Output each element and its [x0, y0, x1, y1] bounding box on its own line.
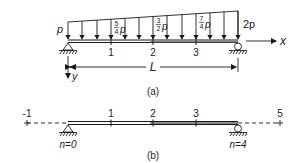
- pin-support-icon: [59, 125, 77, 136]
- y-axis-label: y: [71, 70, 79, 82]
- load-arrows: [68, 11, 238, 39]
- grid-label-1: 1: [108, 108, 114, 119]
- svg-text:p: p: [161, 21, 168, 32]
- load-label-end: 2p: [243, 18, 255, 30]
- svg-text:p: p: [204, 19, 211, 30]
- length-label: L: [150, 60, 157, 74]
- caption-a: (a): [147, 86, 159, 97]
- svg-text:7: 7: [200, 15, 204, 22]
- load-label-node2: 3 2 p: [156, 17, 168, 32]
- roller-support-icon: [229, 43, 247, 54]
- node-label-2: 2: [150, 47, 156, 58]
- load-label-node3: 7 4 p: [199, 15, 211, 30]
- grid-label-2: 2: [150, 108, 156, 119]
- svg-text:2: 2: [157, 25, 161, 32]
- grid-label-minus1: -1: [23, 108, 32, 119]
- svg-text:4: 4: [115, 28, 119, 35]
- figure-b: -1 1 2 3 5: [23, 108, 284, 161]
- plus-mark-icon: [24, 120, 30, 126]
- svg-text:4: 4: [200, 23, 204, 30]
- svg-text:5: 5: [115, 20, 119, 27]
- beam-diagram: x y L p 5 4 p 3 2 p 7 4 p: [0, 0, 298, 163]
- load-label-node1: 5 4 p: [114, 20, 126, 35]
- grid-label-3: 3: [193, 108, 199, 119]
- figure-a: x y L p 5 4 p 3 2 p 7 4 p: [56, 11, 287, 97]
- caption-b: (b): [147, 150, 159, 161]
- pin-support-icon: [59, 43, 77, 54]
- x-axis-label: x: [279, 34, 287, 48]
- node-label-3: 3: [193, 47, 199, 58]
- left-support-label: n=0: [60, 139, 77, 150]
- load-label-start: p: [56, 23, 63, 35]
- right-support-label: n=4: [230, 139, 247, 150]
- svg-text:p: p: [119, 24, 126, 35]
- grid-label-5: 5: [277, 108, 283, 119]
- node-label-1: 1: [108, 47, 114, 58]
- svg-text:3: 3: [157, 17, 161, 24]
- roller-support-icon: [229, 125, 247, 136]
- plus-mark-icon: [277, 120, 283, 126]
